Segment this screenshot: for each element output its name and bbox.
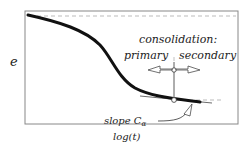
slope-label: slope Cα — [104, 115, 147, 128]
y-axis-label: e — [10, 54, 18, 69]
secondary-arrow-icon — [176, 66, 200, 73]
plot-frame — [25, 11, 238, 124]
slope-pointer-line — [158, 112, 187, 121]
x-axis-label: log(t) — [113, 131, 141, 142]
divider-circle-top — [172, 68, 176, 72]
phase-secondary-label: secondary — [179, 49, 237, 62]
divider-circle-bottom — [172, 98, 177, 103]
primary-arrow-icon — [148, 66, 172, 73]
annotation-title: consolidation: — [139, 33, 217, 46]
phase-primary-label: primary — [124, 49, 169, 62]
slope-pointer-arrow-icon — [184, 104, 192, 116]
consolidation-diagram: e log(t) consolidation: primary secondar… — [0, 0, 252, 147]
